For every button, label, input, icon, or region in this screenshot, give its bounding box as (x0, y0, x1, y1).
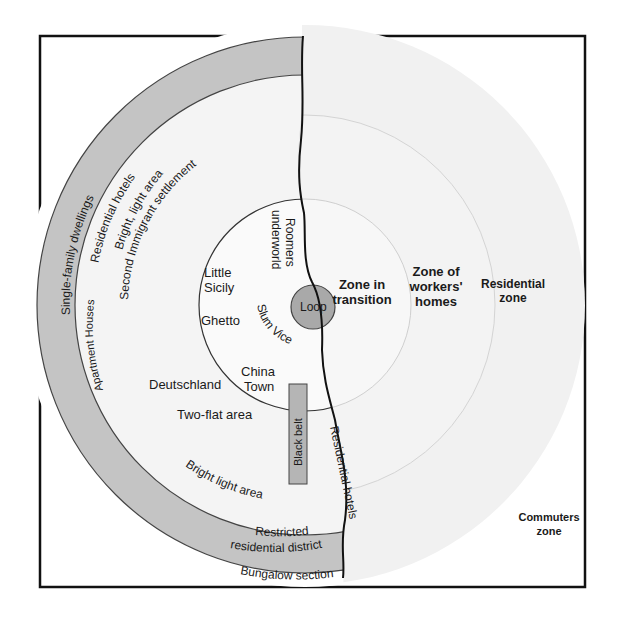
svg-text:Restricted: Restricted (255, 524, 310, 540)
label-zone-of: Zone of (413, 264, 461, 279)
label-transition: transition (332, 292, 391, 307)
label-china: China (241, 364, 276, 379)
label-zone-in: Zone in (339, 277, 385, 292)
label-little: Little (204, 265, 231, 280)
label-commuters: Commuters (518, 511, 579, 523)
label-deutschland: Deutschland (149, 377, 221, 392)
label-workers: workers' (409, 279, 463, 294)
label-sicily: Sicily (204, 280, 235, 295)
label-ghetto: Ghetto (201, 313, 240, 328)
label-black-belt: Black belt (292, 418, 304, 466)
label-residential: Residential (481, 277, 545, 291)
concentric-zone-diagram: Single-family dwellings Residential hote… (0, 0, 618, 620)
label-two-flat-area: Two-flat area (177, 407, 253, 422)
label-commuters-zone: zone (536, 525, 561, 537)
label-residential-zone: zone (499, 291, 527, 305)
label-town: Town (244, 379, 274, 394)
label-restricted: Restricted (255, 524, 310, 540)
label-roomers: Roomers (283, 218, 297, 267)
label-underworld: underworld (269, 210, 283, 269)
label-homes: homes (415, 294, 457, 309)
label-loop: Loop (300, 300, 327, 314)
